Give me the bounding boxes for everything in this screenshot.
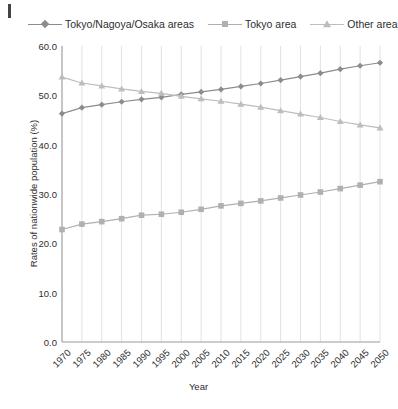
- y-axis-tick-label: 20.0: [39, 238, 58, 249]
- x-axis-title: Year: [0, 381, 397, 392]
- y-axis-tick-label: 10.0: [39, 287, 58, 298]
- x-axis-tick-label: 1980: [90, 347, 113, 370]
- data-point-diamond: [377, 60, 383, 66]
- y-axis-tick-label: 60.0: [39, 41, 58, 52]
- data-point-diamond: [357, 63, 363, 69]
- data-point-square: [99, 219, 105, 225]
- page-corner-mark: [8, 4, 11, 18]
- legend-item-diamond[interactable]: Tokyo/Nagoya/Osaka areas: [28, 18, 194, 30]
- data-point-square: [238, 201, 244, 207]
- data-point-square: [159, 211, 165, 217]
- x-axis-tick-label: 1990: [130, 347, 153, 370]
- data-point-diamond: [337, 66, 343, 72]
- legend-label: Tokyo/Nagoya/Osaka areas: [65, 18, 194, 30]
- x-axis-tick-label: 1985: [110, 347, 133, 370]
- x-axis-tick-label: 2015: [229, 347, 252, 370]
- data-point-square: [79, 221, 85, 227]
- x-axis-tick-label: 1995: [150, 347, 173, 370]
- data-point-diamond: [218, 86, 224, 92]
- legend-item-square[interactable]: Tokyo area: [208, 18, 296, 30]
- legend-label: Tokyo area: [245, 18, 296, 30]
- triangle-marker-icon: [323, 20, 331, 27]
- data-point-square: [119, 216, 125, 222]
- x-axis-tick-label: 2020: [249, 347, 272, 370]
- legend-label: Other area: [347, 18, 397, 30]
- data-point-diamond: [278, 77, 284, 83]
- x-axis-tick-label: 2035: [309, 347, 332, 370]
- chart-legend: Tokyo/Nagoya/Osaka areasTokyo areaOther …: [28, 16, 378, 32]
- plot-area: 0.010.020.030.040.050.060.01970197519801…: [62, 46, 380, 342]
- x-axis-tick-label: 2050: [368, 347, 391, 370]
- y-axis-title: Rates of nationwide population (%): [28, 69, 39, 319]
- data-point-square: [278, 195, 284, 201]
- legend-item-triangle[interactable]: Other area: [310, 18, 397, 30]
- data-point-square: [59, 227, 65, 233]
- x-axis-tick-label: 2030: [289, 347, 312, 370]
- chart-svg: [62, 46, 380, 342]
- x-axis-tick-label: 2005: [189, 347, 212, 370]
- data-point-diamond: [79, 105, 85, 111]
- data-point-diamond: [59, 110, 65, 116]
- legend-swatch-diamond: [28, 19, 62, 30]
- data-point-square: [318, 189, 324, 195]
- diamond-marker-icon: [41, 20, 49, 28]
- square-marker-icon: [222, 21, 228, 27]
- data-point-diamond: [317, 70, 323, 76]
- data-point-diamond: [99, 102, 105, 108]
- data-point-diamond: [258, 80, 264, 86]
- data-point-diamond: [238, 83, 244, 89]
- data-point-square: [337, 186, 343, 192]
- data-point-square: [198, 206, 204, 212]
- data-point-square: [377, 179, 383, 185]
- x-axis-tick-label: 1975: [70, 347, 93, 370]
- x-axis-tick-label: 2040: [328, 347, 351, 370]
- data-point-square: [178, 209, 184, 215]
- y-axis-tick-label: 40.0: [39, 139, 58, 150]
- x-axis-tick-label: 2000: [169, 347, 192, 370]
- y-axis-tick-label: 0.0: [44, 337, 57, 348]
- x-axis-tick-label: 2045: [348, 347, 371, 370]
- data-point-diamond: [138, 96, 144, 102]
- x-axis-tick-label: 2010: [209, 347, 232, 370]
- x-axis-tick-label: 1970: [50, 347, 73, 370]
- data-point-triangle: [59, 74, 66, 80]
- data-point-diamond: [297, 73, 303, 79]
- data-point-square: [258, 198, 264, 204]
- legend-swatch-square: [208, 19, 242, 30]
- y-axis-tick-label: 30.0: [39, 189, 58, 200]
- x-axis-tick-label: 2025: [269, 347, 292, 370]
- data-point-square: [139, 212, 145, 218]
- y-axis-tick-label: 50.0: [39, 90, 58, 101]
- data-point-square: [218, 203, 224, 209]
- data-point-square: [298, 192, 304, 198]
- data-point-diamond: [119, 99, 125, 105]
- data-point-square: [357, 182, 363, 188]
- legend-swatch-triangle: [310, 19, 344, 30]
- data-point-diamond: [198, 89, 204, 95]
